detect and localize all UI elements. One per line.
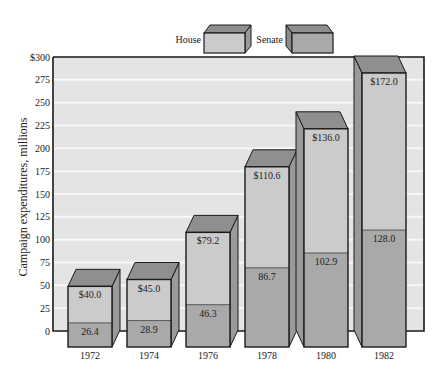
bar-top-face [127,263,179,280]
senate-value-label: 28.9 [140,324,158,335]
senate-value-label: 128.0 [373,233,396,244]
campaign-expenditures-chart: $3002752502252001751501251007550250 Camp… [0,0,445,381]
bar-top-face [68,269,120,286]
senate-value-label: 102.9 [315,256,338,267]
bar-senate-segment [362,230,406,347]
y-tick-label: 250 [35,97,50,108]
bar-1972: $40.026.4 [68,269,120,347]
y-axis: $3002752502252001751501251007550250 [30,52,50,337]
y-tick-label: 100 [35,234,50,245]
senate-value-label: 86.7 [258,271,276,282]
bar-top-face [296,112,348,129]
senate-value-label: 46.3 [199,308,217,319]
y-tick-label: 25 [40,303,50,314]
bar-house-segment [304,129,348,253]
y-tick-label: 225 [35,120,50,131]
y-tick-label: 125 [35,211,50,222]
bar-house-segment [245,167,289,268]
x-axis: 197219741976197819801982 [80,350,394,361]
y-axis-label: Campaign expenditures, millions [16,117,30,276]
house-value-label: $45.0 [138,283,161,294]
bar-side-face [296,112,304,347]
legend-swatch-senate [286,25,333,53]
x-tick-label: 1980 [316,350,336,361]
house-value-label: $136.0 [312,132,340,143]
legend: House Senate [175,25,333,53]
legend-label-house: House [175,34,201,45]
bar-1982: $172.0128.0 [354,56,406,347]
house-value-label: $79.2 [197,235,220,246]
y-tick-label: 50 [40,280,50,291]
house-value-label: $172.0 [370,76,398,87]
bar-senate-segment [304,253,348,347]
bar-side-face [354,56,362,347]
bar-house-segment [362,73,406,230]
x-tick-label: 1982 [374,350,394,361]
y-tick-label: 75 [40,257,50,268]
y-tick-label: 175 [35,166,50,177]
x-tick-label: 1972 [80,350,100,361]
y-tick-label: $300 [30,52,50,63]
x-tick-label: 1976 [198,350,218,361]
senate-value-label: 26.4 [81,326,99,337]
bar-top-face [186,215,238,232]
bar-1976: $79.246.3 [186,215,238,347]
bar-1980: $136.0102.9 [296,112,348,347]
bar-side-face [230,215,238,347]
bar-top-face [354,56,406,73]
x-tick-label: 1978 [257,350,277,361]
legend-swatch-house [204,25,251,53]
house-value-label: $110.6 [253,170,280,181]
bar-top-face [245,150,297,167]
house-value-label: $40.0 [79,289,102,300]
y-tick-label: 150 [35,189,50,200]
y-tick-label: 275 [35,74,50,85]
x-tick-label: 1974 [139,350,159,361]
bar-1974: $45.028.9 [127,263,179,347]
y-tick-label: 0 [45,326,50,337]
bar-1978: $110.686.7 [245,150,297,347]
y-tick-label: 200 [35,143,50,154]
legend-label-senate: Senate [256,34,283,45]
